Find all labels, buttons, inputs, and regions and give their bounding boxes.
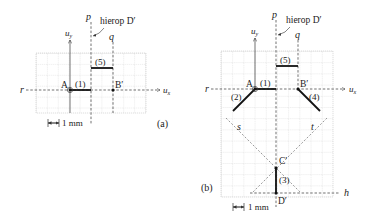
point-C-b (274, 166, 277, 169)
label-p-b: p (271, 9, 277, 20)
caption-a: (a) (157, 118, 168, 130)
label-uy-a: uy (65, 28, 73, 39)
point-D-b (274, 191, 277, 194)
label-segment-5-a: (5) (95, 57, 106, 67)
label-r-a: r (20, 84, 24, 95)
label-q-a: q (109, 31, 114, 42)
annotation-hierop-a: hierop D′ (100, 16, 136, 26)
panel-b: r ux uy p q hierop D′ s t h (5) (1) (201, 9, 357, 212)
diagram-canvas: r ux uy p q hierop D′ (5) (1) A B′ (0, 0, 372, 213)
annotation-arrow-b (278, 27, 290, 35)
label-q-b: q (295, 29, 300, 40)
scale-bar-a: 1 mm (48, 118, 83, 128)
panel-a: r ux uy p q hierop D′ (5) (1) A B′ (20, 11, 171, 130)
label-A-a: A (61, 80, 68, 90)
scale-label-b: 1 mm (248, 202, 269, 212)
label-ux-a: ux (163, 85, 171, 96)
label-h-b: h (344, 187, 349, 198)
scale-bar-b: 1 mm (233, 202, 269, 212)
label-segment-1-b: (1) (260, 78, 271, 88)
label-uy-b: uy (251, 26, 259, 37)
label-p-a: p (85, 11, 91, 22)
label-r-b: r (205, 83, 209, 94)
annotation-arrow-a (93, 28, 104, 36)
label-s-b: s (237, 121, 241, 132)
label-segment-1-a: (1) (75, 79, 86, 89)
label-segment-4-b: (4) (309, 92, 320, 102)
caption-b: (b) (201, 182, 213, 194)
label-segment-2-b: (2) (231, 92, 242, 102)
label-ux-b: ux (349, 84, 357, 95)
scale-label-a: 1 mm (62, 118, 83, 128)
label-A-b: A (246, 79, 253, 89)
label-D-b: D′ (278, 196, 287, 206)
annotation-hierop-b: hierop D′ (286, 15, 322, 25)
label-C-b: C′ (279, 156, 287, 166)
label-B-a: B′ (115, 80, 123, 90)
label-t-b: t (311, 121, 314, 132)
label-segment-5-b: (5) (280, 55, 291, 65)
label-B-b: B′ (300, 79, 308, 89)
label-segment-3-b: (3) (279, 175, 290, 185)
